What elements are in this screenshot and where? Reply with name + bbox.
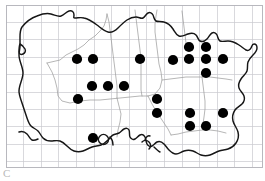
record-dot [73, 94, 83, 104]
record-dot [152, 94, 162, 104]
record-dot [103, 81, 113, 91]
record-dot [88, 54, 98, 64]
caption-fragment: C [3, 167, 123, 181]
record-dot [201, 42, 211, 52]
record-dot [218, 54, 228, 64]
record-dot [201, 121, 211, 131]
record-dot [201, 54, 211, 64]
map-canvas [0, 0, 265, 181]
record-dot [72, 54, 82, 64]
record-dot [88, 133, 98, 143]
figure-background [0, 0, 265, 181]
record-dot [184, 54, 194, 64]
record-dot [184, 42, 194, 52]
record-dot [168, 55, 178, 65]
record-dot [152, 108, 162, 118]
record-dot [87, 81, 97, 91]
distribution-map-figure: C [0, 0, 265, 181]
record-dot [185, 121, 195, 131]
record-dot [119, 81, 129, 91]
record-dot [135, 54, 145, 64]
record-dot [218, 108, 228, 118]
record-dot [201, 68, 211, 78]
record-dot [185, 108, 195, 118]
